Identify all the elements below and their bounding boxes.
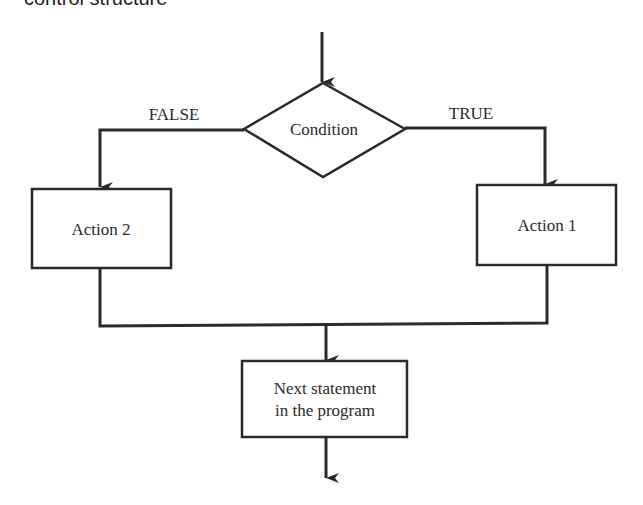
true-label: TRUE bbox=[449, 104, 493, 123]
action-2-box: Action 2 bbox=[32, 189, 171, 268]
action-2-label: Action 2 bbox=[71, 220, 130, 239]
action-1-label: Action 1 bbox=[517, 216, 576, 235]
decision-label: Condition bbox=[290, 120, 359, 139]
action-1-box: Action 1 bbox=[477, 185, 616, 265]
false-label: FALSE bbox=[149, 105, 200, 124]
true-branch-line bbox=[405, 128, 545, 184]
next-statement-line1: Next statement bbox=[274, 379, 377, 398]
next-statement-box: Next statement in the program bbox=[242, 361, 407, 437]
merge-line bbox=[100, 265, 547, 326]
flowchart: Condition FALSE TRUE Action 2 Action 1 N… bbox=[0, 0, 643, 505]
next-statement-line2: in the program bbox=[275, 401, 375, 420]
false-branch-line bbox=[100, 130, 244, 187]
decision-diamond: Condition bbox=[244, 83, 405, 177]
